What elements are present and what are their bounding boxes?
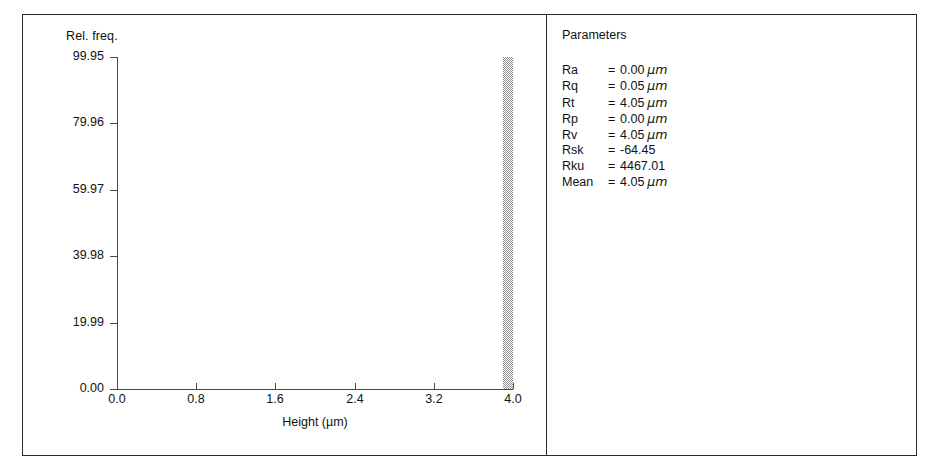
parameter-row: Ra=0.00µm [562, 62, 892, 78]
x-tick-label: 3.2 [404, 392, 464, 406]
parameter-unit: µm [647, 95, 667, 110]
parameter-name: Rku [562, 159, 608, 174]
parameters-list: Ra=0.00µmRq=0.05µmRt=4.05µmRp=0.00µmRv=4… [562, 62, 892, 190]
parameter-row: Mean=4.05µm [562, 174, 892, 190]
parameter-equals: = [608, 128, 620, 143]
y-tick-label: 99.95 [38, 49, 104, 63]
x-tick-mark [355, 383, 356, 389]
y-tick-label: 79.96 [38, 115, 104, 129]
parameter-value: 0.00 [620, 63, 644, 78]
parameter-value: 4.05 [620, 128, 644, 143]
parameter-value: 4.05 [620, 175, 644, 190]
parameter-value: 4467.01 [620, 159, 665, 174]
plot-area [117, 57, 513, 389]
y-tick-label: 59.97 [38, 182, 104, 196]
parameter-name: Rv [562, 128, 608, 143]
parameter-row: Rv=4.05µm [562, 127, 892, 143]
x-tick-label: 1.6 [245, 392, 305, 406]
y-tick-mark [110, 389, 117, 390]
histogram-chart: Rel. freq. 0.0019.9939.9859.9779.9699.95… [0, 0, 546, 475]
x-tick-label: 2.4 [325, 392, 385, 406]
y-tick-mark [110, 57, 117, 58]
parameter-row: Rsk=-64.45 [562, 143, 892, 158]
parameter-unit: µm [647, 78, 667, 93]
parameter-name: Rp [562, 112, 608, 127]
parameter-name: Ra [562, 63, 608, 78]
parameter-name: Mean [562, 175, 608, 190]
parameter-unit: µm [647, 127, 667, 142]
parameter-name: Rsk [562, 143, 608, 158]
x-tick-mark [196, 383, 197, 389]
y-tick-mark [110, 123, 117, 124]
x-tick-mark [513, 383, 514, 389]
x-tick-mark [275, 383, 276, 389]
parameter-value: 4.05 [620, 96, 644, 111]
parameter-row: Rq=0.05µm [562, 78, 892, 94]
parameter-equals: = [608, 79, 620, 94]
parameter-unit: µm [647, 62, 667, 77]
x-tick-mark [434, 383, 435, 389]
parameter-row: Rt=4.05µm [562, 95, 892, 111]
parameter-equals: = [608, 143, 620, 158]
parameter-name: Rt [562, 96, 608, 111]
parameter-value: -64.45 [620, 143, 655, 158]
parameter-equals: = [608, 63, 620, 78]
y-tick-mark [110, 323, 117, 324]
parameter-value: 0.00 [620, 112, 644, 127]
parameter-equals: = [608, 112, 620, 127]
y-tick-label: 19.99 [38, 315, 104, 329]
parameter-equals: = [608, 175, 620, 190]
parameters-panel: Parameters Ra=0.00µmRq=0.05µmRt=4.05µmRp… [562, 28, 892, 190]
parameter-equals: = [608, 96, 620, 111]
x-tick-label: 0.0 [87, 392, 147, 406]
x-tick-label: 4.0 [483, 392, 543, 406]
panel-divider [546, 14, 547, 456]
histogram-bar [503, 57, 513, 389]
x-axis-title: Height (µm) [117, 415, 513, 429]
y-tick-label: 39.98 [38, 248, 104, 262]
parameters-title: Parameters [562, 28, 892, 42]
x-tick-mark [117, 383, 118, 389]
parameter-row: Rp=0.00µm [562, 111, 892, 127]
parameter-row: Rku=4467.01 [562, 159, 892, 174]
x-axis-line [117, 389, 513, 390]
parameter-unit: µm [647, 174, 667, 189]
parameter-value: 0.05 [620, 79, 644, 94]
y-tick-mark [110, 190, 117, 191]
y-tick-mark [110, 256, 117, 257]
parameter-name: Rq [562, 79, 608, 94]
parameter-equals: = [608, 159, 620, 174]
parameter-unit: µm [647, 111, 667, 126]
x-tick-label: 0.8 [166, 392, 226, 406]
y-axis-title: Rel. freq. [66, 29, 118, 43]
